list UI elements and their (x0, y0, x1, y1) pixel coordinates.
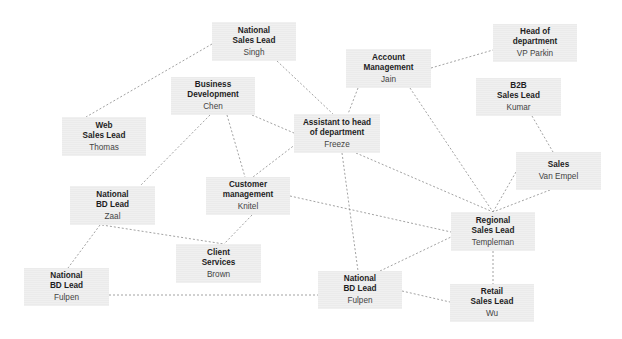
org-node-singh[interactable]: National Sales Lead Singh (212, 22, 296, 61)
org-diagram: National Sales Lead Singh Business Devel… (0, 0, 622, 339)
edge-chen-freeze (252, 115, 294, 133)
node-person-name: Templeman (472, 237, 514, 248)
org-node-zaal[interactable]: National BD Lead Zaal (70, 186, 155, 225)
edge-freeze-knitel (253, 144, 296, 177)
edge-jain-freeze (348, 88, 358, 114)
org-node-chen[interactable]: Business Development Chen (171, 77, 255, 115)
edge-knitel-brown (224, 215, 252, 244)
node-person-name: Chen (203, 101, 223, 112)
org-node-brown[interactable]: Client Services Brown (176, 244, 261, 283)
node-role-title: National BD Lead (96, 190, 129, 210)
org-node-jain[interactable]: Account Management Jain (346, 49, 431, 88)
node-role-title: National BD Lead (50, 271, 83, 291)
node-person-name: Brown (207, 269, 230, 280)
edge-chen-zaal (140, 115, 210, 186)
org-node-templeman[interactable]: Regional Sales Lead Templeman (451, 212, 535, 251)
node-role-title: Head of department (513, 27, 558, 47)
node-role-title: National BD Lead (343, 274, 376, 294)
node-person-name: Kumar (506, 102, 530, 113)
edge-freeze-fulpen_mid (342, 153, 358, 271)
node-role-title: Account Management (363, 53, 413, 73)
node-person-name: Knitel (238, 201, 258, 212)
edge-zaal-fulpen_left (68, 225, 100, 268)
edge-kumar-vanempel (532, 116, 553, 152)
node-role-title: Client Services (202, 248, 236, 268)
node-role-title: Assistant to head of department (303, 118, 371, 138)
org-node-freeze[interactable]: Assistant to head of department Freeze (294, 114, 380, 153)
edge-fulpen_mid-templeman (380, 237, 451, 271)
node-person-name: Van Empel (539, 171, 578, 182)
node-person-name: Zaal (105, 211, 121, 222)
edge-vanempel-templeman (493, 190, 550, 212)
edge-zaal-brown (102, 225, 224, 244)
node-role-title: Regional Sales Lead (472, 216, 515, 236)
node-person-name: VP Parkin (517, 48, 553, 59)
org-node-knitel[interactable]: Customer management Knitel (206, 177, 290, 215)
node-person-name: Freeze (324, 139, 349, 150)
org-node-parkin[interactable]: Head of department VP Parkin (493, 24, 577, 62)
org-node-vanempel[interactable]: Sales Van Empel (516, 152, 601, 190)
node-role-title: National Sales Lead (233, 26, 276, 46)
node-person-name: Singh (244, 47, 265, 58)
org-node-wu[interactable]: Retail Sales Lead Wu (450, 284, 534, 322)
org-node-kumar[interactable]: B2B Sales Lead Kumar (476, 78, 561, 116)
node-person-name: Fulpen (54, 292, 79, 303)
edge-singh-freeze (277, 61, 333, 114)
edge-fulpen_mid-wu (402, 291, 450, 302)
edge-knitel-templeman (290, 196, 451, 232)
node-role-title: Retail Sales Lead (471, 287, 514, 307)
node-person-name: Fulpen (347, 295, 372, 306)
edge-chen-knitel (227, 115, 245, 177)
node-person-name: Thomas (89, 142, 119, 153)
org-node-thomas[interactable]: Web Sales Lead Thomas (62, 117, 146, 156)
node-role-title: Sales (548, 160, 569, 170)
edge-jain-parkin (431, 50, 493, 68)
node-role-title: Web Sales Lead (83, 121, 126, 141)
org-node-fulpen_left[interactable]: National BD Lead Fulpen (24, 268, 109, 306)
node-role-title: B2B Sales Lead (497, 81, 540, 101)
node-role-title: Customer management (223, 180, 274, 200)
node-person-name: Jain (381, 74, 396, 85)
node-person-name: Wu (486, 308, 498, 319)
node-role-title: Business Development (187, 80, 238, 100)
org-node-fulpen_mid[interactable]: National BD Lead Fulpen (318, 271, 402, 309)
edge-freeze-templeman (356, 153, 493, 212)
edge-vanempel-templeman (493, 172, 516, 212)
